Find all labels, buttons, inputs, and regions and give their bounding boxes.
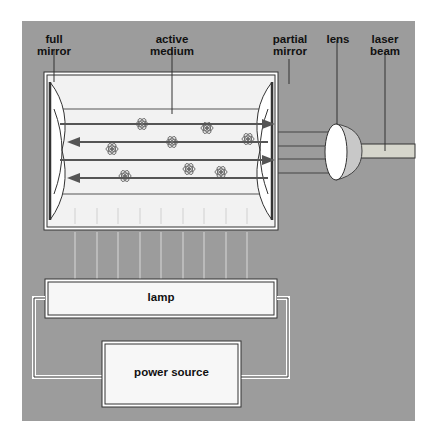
label-partial-mirror: partial mirror: [268, 33, 312, 57]
label-active-medium: active medium: [146, 33, 198, 57]
label-lamp: lamp: [48, 291, 274, 303]
label-full-mirror: full mirror: [34, 33, 74, 57]
label-lens: lens: [322, 33, 354, 45]
label-power-source: power source: [105, 366, 238, 378]
label-laser-beam: laser beam: [365, 33, 405, 57]
active-medium-chamber: [44, 72, 278, 230]
laser-diagram: full mirror active medium partial mirror…: [0, 0, 435, 441]
